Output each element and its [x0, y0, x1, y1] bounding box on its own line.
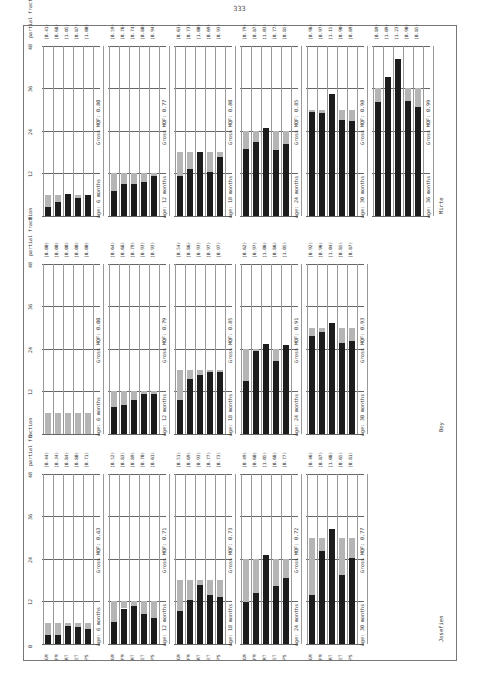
- partial-fraction-value: (0.77): [282, 451, 287, 467]
- partial-fraction-value: (0.64): [110, 241, 115, 257]
- developmental-age-segment: [415, 107, 421, 216]
- age-label: Age: 18 months: [227, 604, 233, 646]
- grid-line: [174, 349, 232, 350]
- grid-column: [103, 264, 104, 434]
- chronological-age-segment: [45, 413, 51, 434]
- chronological-age-segment: [121, 601, 127, 608]
- developmental-age-segment: [75, 198, 81, 216]
- partial-fraction-value: (0.70): [140, 451, 145, 467]
- grid-column: [271, 264, 272, 434]
- grid-column: [433, 46, 434, 216]
- partial-fraction-value: (0.90): [404, 23, 409, 39]
- category-label: PS: [282, 655, 287, 660]
- grid-column: [185, 474, 186, 644]
- chronological-age-segment: [141, 173, 147, 182]
- chronological-age-segment: [415, 88, 421, 107]
- grid-line: [42, 349, 100, 350]
- grid-column: [149, 264, 150, 434]
- category-label: FM: [120, 655, 125, 660]
- developmental-age-segment: [45, 207, 51, 216]
- grid-column: [327, 264, 328, 434]
- developmental-age-segment: [309, 595, 315, 644]
- grid-column: [73, 264, 74, 434]
- y-tick-label: 48: [27, 262, 33, 268]
- category-label: RT: [130, 655, 135, 660]
- grid-column: [383, 46, 384, 216]
- developmental-age-segment: [263, 128, 269, 216]
- category-label: PS: [348, 655, 353, 660]
- y-tick-label: 24: [27, 557, 33, 563]
- grid-line: [42, 216, 100, 217]
- grid-column: [159, 474, 160, 644]
- category-label: GM: [308, 655, 313, 660]
- grid-line: [306, 474, 364, 475]
- grid-column: [63, 46, 64, 216]
- grid-column: [423, 46, 424, 216]
- grid-line: [240, 46, 298, 47]
- gross-mqf-label: Gross MQF: 0.77: [161, 100, 167, 145]
- chronological-age-segment: [121, 391, 127, 404]
- grid-line: [174, 516, 232, 517]
- partial-fraction-value: (0.92): [308, 241, 313, 257]
- grid-line: [174, 46, 232, 47]
- chart-panel-boy: 012243648partial fraction(0.00)(0.00)(0.…: [24, 244, 456, 450]
- developmental-age-segment: [207, 372, 213, 434]
- grid-line: [306, 434, 364, 435]
- partial-fraction-value: (0.98): [308, 23, 313, 39]
- category-label: ET: [206, 655, 211, 660]
- partial-fraction-value: (0.94): [150, 23, 155, 39]
- developmental-age-segment: [349, 558, 355, 644]
- grid-column: [43, 264, 44, 434]
- category-label: FM: [318, 655, 323, 660]
- grid-line: [42, 131, 100, 132]
- grid-column: [205, 46, 206, 216]
- grid-line: [306, 644, 364, 645]
- partial-fraction-value: (0.69): [206, 23, 211, 39]
- grid-column: [139, 46, 140, 216]
- developmental-age-segment: [253, 351, 259, 434]
- chronological-age-segment: [405, 88, 411, 101]
- grid-line: [108, 559, 166, 560]
- grid-column: [53, 474, 54, 644]
- developmental-age-segment: [111, 407, 117, 434]
- chronological-age-segment: [375, 88, 381, 102]
- developmental-age-segment: [197, 375, 203, 434]
- gross-mqf-label: Gross MQF: 0.73: [227, 528, 233, 573]
- developmental-age-segment: [131, 400, 137, 434]
- developmental-age-segment: [319, 332, 325, 434]
- grid-column: [119, 46, 120, 216]
- grid-line: [174, 88, 232, 89]
- grid-column: [241, 474, 242, 644]
- chronological-age-segment: [273, 559, 279, 586]
- partial-fraction-value: (0.34): [54, 451, 59, 467]
- age-label: Age: 24 months: [293, 176, 299, 218]
- partial-fraction-value: (0.00): [74, 241, 79, 257]
- developmental-age-segment: [111, 622, 117, 644]
- partial-fraction-value: (0.89): [348, 23, 353, 39]
- partial-fraction-value: (0.89): [130, 451, 135, 467]
- chronological-age-segment: [177, 370, 183, 399]
- grid-column: [235, 264, 236, 434]
- grid-line: [240, 474, 298, 475]
- developmental-age-segment: [329, 529, 335, 644]
- developmental-age-segment: [329, 94, 335, 216]
- grid-line: [306, 46, 364, 47]
- grid-column: [413, 46, 414, 216]
- grid-column: [301, 46, 302, 216]
- grid-line: [108, 306, 166, 307]
- chronological-age-segment: [121, 173, 127, 184]
- grid-column: [291, 264, 292, 434]
- partial-fraction-value: (0.81): [348, 451, 353, 467]
- chronological-age-segment: [131, 391, 137, 400]
- gross-mqf-label: Gross MQF: 0.71: [161, 528, 167, 573]
- grid-column: [109, 264, 110, 434]
- grid-column: [235, 46, 236, 216]
- grid-column: [119, 474, 120, 644]
- grid-column: [109, 474, 110, 644]
- chronological-age-segment: [207, 580, 213, 595]
- grid-line: [306, 88, 364, 89]
- grid-line: [42, 516, 100, 517]
- age-label: Age: 36 months: [425, 176, 431, 218]
- partial-fraction-value: (0.00): [44, 241, 49, 257]
- developmental-age-segment: [253, 593, 259, 644]
